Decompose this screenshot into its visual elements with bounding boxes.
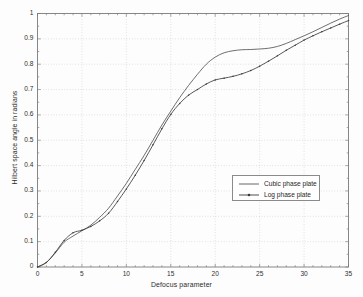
y-tick-label: 0.6 [2, 111, 34, 118]
series-marker [241, 73, 243, 75]
legend-label: Cubic phase plate [264, 181, 317, 188]
series-marker [90, 226, 92, 228]
y-tick-label: 0.8 [2, 61, 34, 68]
series-marker [223, 77, 225, 79]
series-marker [214, 79, 216, 81]
chart-figure: 00.10.20.30.40.50.60.70.80.91 0510152025… [0, 0, 363, 297]
series-marker [312, 35, 314, 37]
series-marker [99, 220, 101, 222]
series-marker [259, 65, 261, 67]
series-marker [134, 174, 136, 176]
series-marker [143, 160, 145, 162]
series-marker [63, 240, 65, 242]
series-marker [348, 20, 350, 22]
series-marker [161, 128, 163, 130]
y-tick-label: 0.5 [2, 137, 34, 144]
x-tick-label: 20 [203, 271, 227, 278]
series-marker [188, 94, 190, 96]
series-marker [108, 213, 110, 215]
x-tick-label: 35 [337, 271, 361, 278]
y-tick-label: 0.4 [2, 162, 34, 169]
series-marker [206, 83, 208, 85]
series-marker [268, 60, 270, 62]
series-marker [126, 188, 128, 190]
series-marker [46, 262, 48, 264]
x-tick-label: 15 [159, 271, 183, 278]
series-marker [179, 103, 181, 105]
series-marker [117, 201, 119, 203]
x-tick-label: 10 [114, 271, 138, 278]
legend: Cubic phase plate Log phase plate [232, 175, 320, 201]
y-tick-label: 0.2 [2, 213, 34, 220]
y-axis-label: Hilbert space angle in radians [11, 68, 18, 208]
data-series [37, 16, 350, 268]
series-marker [321, 31, 323, 33]
series-marker [152, 144, 154, 146]
series-marker [170, 114, 172, 116]
x-tick-label: 25 [248, 271, 272, 278]
x-tick-label: 30 [292, 271, 316, 278]
series-marker [330, 27, 332, 29]
series-marker [294, 44, 296, 46]
x-tick-label: 5 [70, 271, 94, 278]
legend-line-sample-solid [238, 179, 260, 189]
series-marker [232, 76, 234, 78]
series-marker [55, 252, 57, 254]
legend-line-sample-markers [238, 190, 260, 200]
series-marker [197, 89, 199, 91]
legend-entry-log-phase-plate: Log phase plate [233, 189, 319, 201]
series-marker [339, 23, 341, 25]
series-marker [286, 50, 288, 52]
x-tick-label: 0 [26, 271, 50, 278]
y-tick-label: 0 [2, 263, 34, 270]
series-marker [277, 55, 279, 57]
y-tick-label: 0.7 [2, 86, 34, 93]
series-marker [250, 70, 252, 72]
y-tick-label: 0.1 [2, 238, 34, 245]
series-marker [303, 39, 305, 41]
x-axis-label: Defocus parameter [0, 281, 363, 288]
series-marker [72, 232, 74, 234]
plot-area [0, 0, 363, 297]
y-tick-label: 0.9 [2, 35, 34, 42]
series-marker [81, 229, 83, 231]
y-tick-label: 0.3 [2, 187, 34, 194]
y-tick-label: 1 [2, 10, 34, 17]
legend-label: Log phase plate [264, 192, 311, 199]
series-line [38, 21, 349, 267]
series-marker [37, 266, 39, 268]
